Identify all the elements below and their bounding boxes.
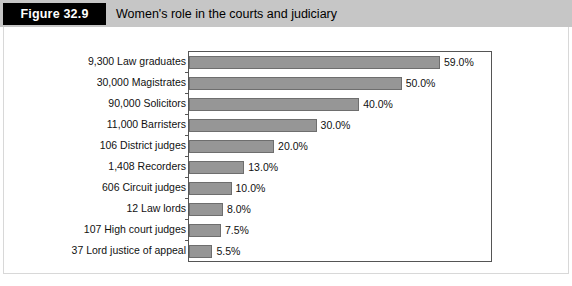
bar-row: 8.0% [189,200,491,221]
figure-number-badge: Figure 32.9 [3,3,106,25]
bar-chart: 59.0%50.0%40.0%30.0%20.0%13.0%10.0%8.0%7… [188,51,492,262]
bar-value-label: 5.5% [216,244,240,258]
category-label: 37 Lord justice of appeal [6,243,186,257]
category-label: 9,300 Law graduates [6,54,186,68]
category-label: 106 District judges [6,138,186,152]
bar [189,203,223,216]
bar-value-label: 7.5% [225,223,249,237]
plot-area: 59.0%50.0%40.0%30.0%20.0%13.0%10.0%8.0%7… [189,52,491,261]
bar-value-label: 30.0% [321,118,351,132]
category-label: 1,408 Recorders [6,159,186,173]
bar [189,119,317,132]
bar-row: 7.5% [189,221,491,242]
bar-value-label: 59.0% [444,55,474,69]
axis-tick [185,114,189,115]
axis-tick [185,93,189,94]
bar-row: 40.0% [189,95,491,116]
category-label: 90,000 Solicitors [6,96,186,110]
bar-row: 13.0% [189,158,491,179]
bar [189,98,359,111]
axis-tick [185,72,189,73]
bar-value-label: 50.0% [406,76,436,90]
axis-tick [185,156,189,157]
bar-row: 30.0% [189,116,491,137]
axis-tick [185,219,189,220]
bar [189,245,212,258]
category-label: 11,000 Barristers [6,117,186,131]
bar [189,224,221,237]
category-labels-column: 9,300 Law graduates30,000 Magistrates90,… [4,51,186,262]
bar [189,77,402,90]
bar [189,140,274,153]
axis-tick [185,135,189,136]
bar [189,56,440,69]
axis-tick [185,177,189,178]
bar-row: 10.0% [189,179,491,200]
axis-tick [185,240,189,241]
bar [189,161,244,174]
bar-value-label: 10.0% [236,181,266,195]
bar-value-label: 20.0% [278,139,308,153]
category-label: 30,000 Magistrates [6,75,186,89]
figure-title-text: Women's role in the courts and judiciary [116,7,337,21]
category-label: 107 High court judges [6,222,186,236]
bar-value-label: 13.0% [248,160,278,174]
bar-row: 59.0% [189,53,491,74]
figure-title: Women's role in the courts and judiciary [116,0,337,27]
bar-row: 20.0% [189,137,491,158]
bar [189,182,232,195]
bar-value-label: 40.0% [363,97,393,111]
figure-header: Figure 32.9 Women's role in the courts a… [0,0,572,27]
category-label: 606 Circuit judges [6,180,186,194]
figure-number-text: Figure 32.9 [20,7,88,21]
axis-tick [185,198,189,199]
category-label: 12 Law lords [6,201,186,215]
bar-value-label: 8.0% [227,202,251,216]
bar-row: 50.0% [189,74,491,95]
bar-row: 5.5% [189,242,491,263]
